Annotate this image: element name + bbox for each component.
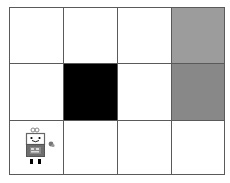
cell-r2-c3[interactable] [171,120,225,175]
cell-r1-c3-pit[interactable] [171,63,225,121]
robot-icon [24,127,60,169]
cell-r2-c1[interactable] [63,120,118,175]
cell-r0-c0[interactable] [9,7,64,64]
cell-r1-c1-wall[interactable] [63,63,118,121]
cell-r0-c2[interactable] [117,7,172,64]
cell-r0-c3-goal[interactable] [171,7,225,64]
cell-r1-c0[interactable] [9,63,64,121]
cell-r1-c2[interactable] [117,63,172,121]
cell-r2-c2[interactable] [117,120,172,175]
cell-r0-c1[interactable] [63,7,118,64]
